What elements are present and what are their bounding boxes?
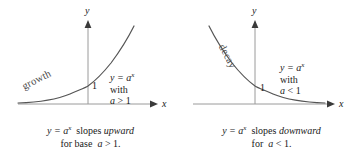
- decay-equation-lhs: y = a: [280, 62, 301, 73]
- decay-plot-svg: [181, 0, 362, 122]
- growth-equation-exponent: x: [131, 71, 134, 79]
- panel-growth: y x 1 growth y = ax with a > 1 y = axslo…: [0, 0, 181, 163]
- growth-caption-line1: y = axslopes upward: [0, 124, 181, 137]
- decay-equation-exponent: x: [301, 61, 304, 69]
- decay-caption-verb: slopes: [251, 125, 276, 136]
- y-intercept-tick-label: 1: [260, 83, 265, 93]
- growth-equation-base-rel: > 1: [115, 95, 131, 106]
- growth-caption-emphasis: upward: [104, 125, 134, 136]
- decay-equation-line2: with: [280, 74, 304, 86]
- x-axis-arrowhead: [150, 101, 158, 108]
- decay-caption-base-rel: < 1.: [273, 138, 291, 149]
- growth-equation-lhs: y = a: [110, 72, 131, 83]
- growth-caption-exponent: x: [68, 124, 71, 132]
- decay-equation-base-rel: < 1: [285, 85, 301, 96]
- decay-caption-exponent: x: [243, 124, 246, 132]
- decay-equation-line1: y = ax: [280, 62, 304, 74]
- growth-equation-line2: with: [110, 84, 134, 96]
- growth-caption-lhs: y = a: [47, 125, 68, 136]
- y-intercept-tick-label: 1: [92, 81, 97, 91]
- growth-caption-base-pre: for base: [60, 138, 92, 149]
- x-axis-arrowhead: [327, 101, 335, 108]
- y-axis-arrowhead: [252, 20, 259, 28]
- x-axis-label: x: [339, 99, 343, 109]
- panel-decay: y x 1 decay y = ax with a < 1 y = axslop…: [181, 0, 362, 163]
- decay-caption-base-pre: for: [252, 138, 264, 149]
- plot-growth: y x 1 growth y = ax with a > 1: [0, 0, 181, 122]
- decay-equation-line3: a < 1: [280, 85, 304, 97]
- x-axis-label: x: [162, 99, 166, 109]
- decay-equation-annotation: y = ax with a < 1: [280, 62, 304, 97]
- decay-caption-emphasis: downward: [279, 125, 321, 136]
- growth-caption-base-rel: > 1.: [102, 138, 120, 149]
- y-axis-label: y: [85, 6, 89, 16]
- decay-caption-line2: fora < 1.: [181, 137, 362, 150]
- growth-plot-svg: [0, 0, 181, 122]
- decay-caption-lhs: y = a: [222, 125, 243, 136]
- growth-equation-annotation: y = ax with a > 1: [110, 72, 134, 107]
- growth-equation-line3: a > 1: [110, 95, 134, 107]
- decay-caption-line1: y = axslopes downward: [181, 124, 362, 137]
- growth-caption: y = axslopes upward for basea > 1.: [0, 124, 181, 150]
- y-axis-arrowhead: [85, 20, 92, 28]
- plot-decay: y x 1 decay y = ax with a < 1: [181, 0, 362, 122]
- exponential-functions-figure: y x 1 growth y = ax with a > 1 y = axslo…: [0, 0, 362, 163]
- growth-equation-line1: y = ax: [110, 72, 134, 84]
- growth-caption-verb: slopes: [76, 125, 101, 136]
- decay-caption: y = axslopes downward fora < 1.: [181, 124, 362, 150]
- growth-caption-line2: for basea > 1.: [0, 137, 181, 150]
- y-axis-label: y: [252, 6, 256, 16]
